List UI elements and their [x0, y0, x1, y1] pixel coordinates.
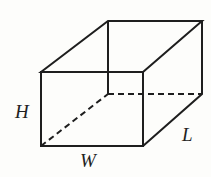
- prism-diagram: H W L: [0, 0, 211, 177]
- height-label: H: [15, 102, 29, 121]
- hidden-bottom-diagonal-edge: [41, 94, 108, 146]
- width-label: W: [80, 151, 96, 170]
- right-face: [143, 21, 202, 146]
- top-face: [41, 21, 202, 72]
- prism-drawing: [0, 0, 211, 177]
- front-face: [41, 72, 143, 146]
- length-label: L: [182, 125, 193, 144]
